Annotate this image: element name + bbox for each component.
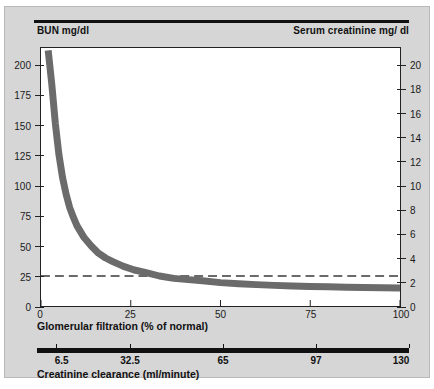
tick-mark [397,113,406,114]
tick-mark [35,216,44,217]
tick-label: 50 [215,309,226,320]
tick-label: 50 [20,241,31,252]
tick-label: 0 [37,309,43,320]
clearance-tick-mark [223,344,224,348]
tick-mark [35,186,44,187]
tick-label: 200 [14,60,31,71]
x-axis-caption: Glomerular filtration (% of normal) [37,320,208,332]
clearance-tick-label: 65 [217,355,228,366]
tick-mark [397,65,406,66]
tick-label: 0 [410,302,416,313]
tick-label: 8 [410,205,416,216]
tick-label: 10 [410,181,421,192]
tick-mark [35,125,44,126]
tick-mark [397,161,406,162]
header-rule [34,20,409,23]
clearance-tick-label: 97 [310,355,321,366]
tick-mark [397,186,406,187]
tick-label: 20 [410,60,421,71]
tick-label: 100 [14,181,31,192]
tick-mark [35,276,44,277]
tick-label: 25 [125,309,136,320]
tick-label: 175 [14,90,31,101]
left-axis-title: BUN mg/dl [37,25,89,36]
tick-label: 16 [410,108,421,119]
tick-mark [35,95,44,96]
tick-label: 150 [14,120,31,131]
tick-mark [397,234,406,235]
plot-svg [41,48,400,306]
clearance-tick-label: 32.5 [120,355,139,366]
tick-label: 25 [20,271,31,282]
tick-label: 18 [410,84,421,95]
figure-panel: BUN mg/dl Serum creatinine mg/ dl 025507… [4,6,430,378]
tick-mark [397,258,406,259]
tick-label: 14 [410,132,421,143]
tick-label: 6 [410,229,416,240]
tick-label: 2 [410,277,416,288]
creatinine-clearance-caption: Creatinine clearance (ml/minute) [37,368,199,380]
clearance-tick-mark [130,344,131,348]
tick-label: 75 [20,211,31,222]
plot-area [40,47,401,307]
tick-mark [397,307,406,308]
clearance-tick-mark [316,344,317,348]
clearance-tick-label: 130 [393,355,410,366]
tick-mark [397,282,406,283]
right-axis-title: Serum creatinine mg/ dl [293,25,409,36]
clearance-tick-mark [409,344,410,348]
tick-label: 12 [410,156,421,167]
creatinine-clearance-bar [37,348,409,353]
tick-mark [397,210,406,211]
tick-mark [35,246,44,247]
tick-mark [397,137,406,138]
axis-tick-marks [41,300,400,306]
clearance-tick-mark [56,344,57,348]
tick-label: 75 [305,309,316,320]
tick-label: 100 [393,309,410,320]
tick-mark [397,89,406,90]
tick-mark [35,65,44,66]
tick-mark [35,155,44,156]
tick-label: 4 [410,253,416,264]
tick-label: 125 [14,150,31,161]
clearance-tick-label: 6.5 [55,355,69,366]
tick-label: 0 [25,302,31,313]
tick-mark [35,307,44,308]
bun-creatinine-curve [48,50,400,288]
